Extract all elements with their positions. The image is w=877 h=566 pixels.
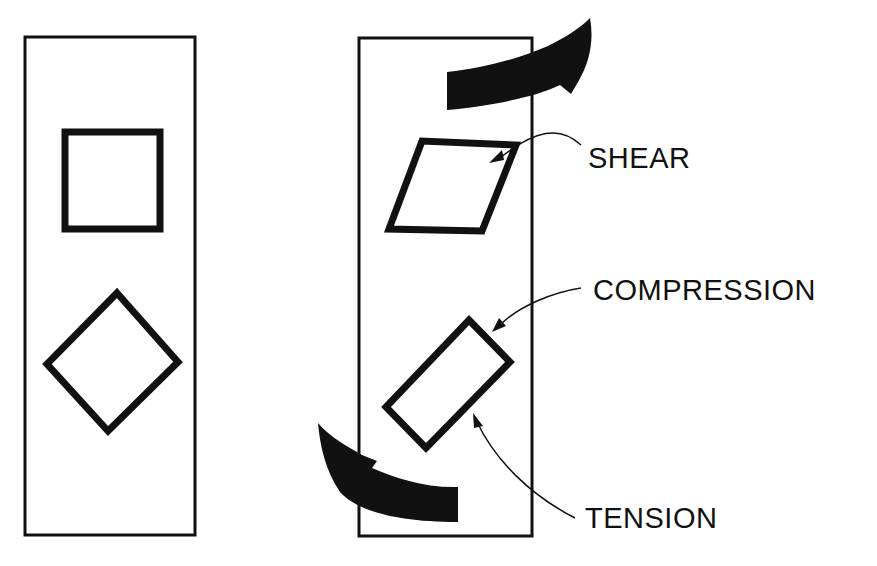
tension-leader-line [477,422,575,518]
right-panel [318,18,592,536]
tension-label: TENSION [585,504,717,533]
right-panel-frame [359,38,532,536]
shear-label: SHEAR [588,144,690,173]
left-panel-frame [25,37,195,535]
compression-label: COMPRESSION [593,276,816,305]
compression-arrowhead-icon [492,318,506,332]
left-panel [25,37,195,535]
shear-arrowhead-icon [489,150,504,163]
top-shear-arrow [447,18,592,110]
square-element [65,132,160,229]
tension-arrowhead-icon [473,413,483,428]
diamond-element [47,293,178,431]
parallelogram-element [389,141,516,231]
compression-leader-line [500,288,581,325]
rotated-rectangle-element [386,320,510,448]
